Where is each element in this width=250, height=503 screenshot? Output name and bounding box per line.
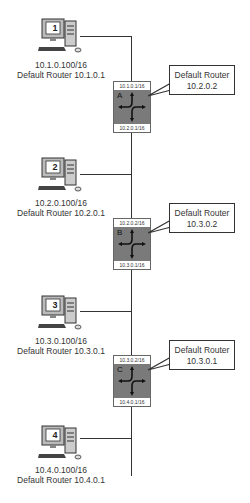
host-2-number: 2 [50,162,60,172]
router-a-bottom-ip: 10.2.0.1/16 [114,124,150,132]
router-a-callout: Default Router 10.2.0.2 [169,65,235,95]
host-1-link [80,36,132,37]
router-b-body: B [114,227,150,261]
host-4-ip: 10.4.0.100/16 [1,465,121,475]
host-3-ip: 10.3.0.100/16 [1,336,121,346]
host-2-computer-icon: 2 [38,157,82,197]
host-4-computer-icon: 4 [38,425,82,465]
router-c-callout-line2: 10.3.0.1 [170,356,234,367]
host-1-gateway: Default Router 10.1.0.1 [1,70,121,80]
host-4-number: 4 [50,430,60,440]
host-3-gateway: Default Router 10.3.0.1 [1,346,121,356]
router-c-callout: Default Router 10.3.0.1 [169,340,235,370]
host-3-label: 10.3.0.100/16 Default Router 10.3.0.1 [1,336,121,356]
host-2-label: 10.2.0.100/16 Default Router 10.2.0.1 [1,198,121,218]
router-c: 10.3.0.2/16 C 10.4.0.1/16 [113,355,151,407]
host-4-gateway: Default Router 10.4.0.1 [1,475,121,485]
host-2-ip: 10.2.0.100/16 [1,198,121,208]
router-b: 10.2.0.2/16 B 10.3.0.1/16 [113,218,151,270]
router-a-callout-line1: Default Router [170,70,234,81]
router-b-top-ip: 10.2.0.2/16 [114,219,150,227]
router-c-bottom-ip: 10.4.0.1/16 [114,398,150,406]
router-c-callout-line1: Default Router [170,345,234,356]
router-arrows-icon [114,227,150,261]
host-3-computer-icon: 3 [38,295,82,335]
router-b-bottom-ip: 10.3.0.1/16 [114,261,150,269]
router-c-body: C [114,364,150,398]
router-a-callout-line2: 10.2.0.2 [170,81,234,92]
host-1-label: 10.1.0.100/16 Default Router 10.1.0.1 [1,60,121,80]
host-1-number: 1 [50,23,60,33]
router-c-top-ip: 10.3.0.2/16 [114,356,150,364]
host-3-number: 3 [50,300,60,310]
router-a-top-ip: 10.1.0.1/16 [114,82,150,90]
router-b-callout-line1: Default Router [170,208,234,219]
host-2-gateway: Default Router 10.2.0.1 [1,208,121,218]
router-b-callout: Default Router 10.3.0.2 [169,203,235,233]
host-4-link [80,438,132,439]
router-arrows-icon [114,364,150,398]
router-b-callout-line2: 10.3.0.2 [170,219,234,230]
host-3-link [80,311,132,312]
host-2-link [80,174,132,175]
router-a-body: A [114,90,150,124]
host-1-ip: 10.1.0.100/16 [1,60,121,70]
router-arrows-icon [114,90,150,124]
router-a: 10.1.0.1/16 A 10.2.0.1/16 [113,81,151,133]
host-1-computer-icon: 1 [38,18,82,58]
host-4-label: 10.4.0.100/16 Default Router 10.4.0.1 [1,465,121,485]
